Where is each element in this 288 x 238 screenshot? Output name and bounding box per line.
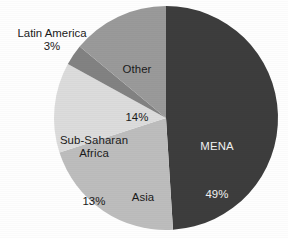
pie-label-other-value: 14% (106, 111, 168, 124)
pie-label-latin-america-value: 3% (6, 40, 98, 53)
pie-label-sub-saharan-africa-value: 13% (51, 195, 137, 208)
pie-label-latin-america-name: Latin America (6, 27, 98, 40)
pie-label-mena: MENA 49% (186, 104, 248, 237)
pie-label-other: Other 14% (106, 27, 168, 160)
pie-label-other-name: Other (106, 63, 168, 76)
pie-label-latin-america: Latin America 3% (6, 27, 98, 53)
pie-chart: MENA 49% Asia 21% Sub-Saharan Africa 13%… (0, 0, 288, 238)
pie-label-mena-value: 49% (186, 188, 248, 201)
pie-label-mena-name: MENA (186, 140, 248, 153)
